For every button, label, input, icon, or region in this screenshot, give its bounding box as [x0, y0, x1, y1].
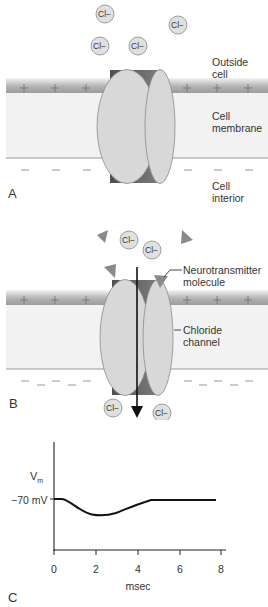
ion-label: Cl− — [122, 234, 135, 246]
x-tick-label: 8 — [218, 563, 224, 575]
x-tick-label: 6 — [177, 563, 183, 575]
x-axis-ticks — [54, 550, 221, 555]
x-axis-label: msec — [125, 580, 150, 592]
cell-interior-label: Cell interior — [212, 180, 244, 204]
panel-c-membrane-potential-chart: Vm −70 mV 0 2 4 6 8 msec C — [0, 420, 268, 607]
neurotransmitter-molecules — [97, 230, 193, 288]
membrane-potential-trace — [54, 499, 216, 515]
panel-a-resting-membrane: Cl− Cl− Cl− Cl− Outside cell Cell membra… — [0, 0, 268, 210]
channel-subunit-right — [143, 280, 173, 396]
chloride-channel-label: Chloride channel — [183, 324, 222, 348]
panel-letter-b: B — [9, 396, 18, 411]
ion-label: Cl− — [93, 40, 106, 52]
ion-label: Cl− — [106, 402, 119, 414]
neurotransmitter-label: Neurotransmitter molecule — [183, 264, 261, 288]
y-reference-label: −70 mV — [11, 494, 47, 506]
panel-letter-a: A — [8, 186, 17, 201]
ion-label: Cl− — [98, 8, 111, 20]
y-axis-label: Vm — [30, 470, 43, 487]
x-tick-label: 0 — [51, 563, 57, 575]
x-tick-label: 4 — [135, 563, 141, 575]
ipsp-chart — [0, 420, 268, 607]
ion-label: Cl− — [171, 19, 184, 31]
panel-b-open-channel: Cl− Cl− Cl− Cl− Neurotransmitter molecul… — [0, 210, 268, 420]
ion-label: Cl− — [145, 244, 158, 256]
channel-subunit-left — [100, 280, 150, 396]
ion-label: Cl− — [155, 407, 168, 419]
ion-label: Cl− — [131, 40, 144, 52]
panel-letter-c: C — [8, 590, 17, 605]
channel-subunit-right — [145, 70, 175, 184]
panel-a-drawing — [0, 0, 268, 210]
outside-cell-label: Outside cell — [212, 56, 248, 80]
chloride-channel-closed — [97, 70, 175, 184]
cell-membrane-label: Cell membrane — [212, 110, 262, 134]
x-tick-label: 2 — [93, 563, 99, 575]
